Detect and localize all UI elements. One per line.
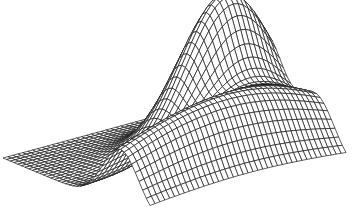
surface-plot <box>0 0 352 223</box>
wireframe-mesh <box>3 0 346 205</box>
